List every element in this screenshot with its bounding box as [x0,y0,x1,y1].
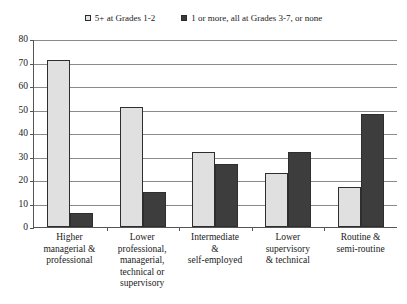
light-square-icon [85,15,91,21]
y-axis-tick-label: 70 [19,59,29,69]
chart-legend: 5+ at Grades 1-2 1 or more, all at Grade… [0,13,407,23]
bar-series-1 [338,187,361,227]
bar-group [107,40,180,227]
plot-wrapper: 01020304050607080 [33,40,397,228]
bar-group [252,40,325,227]
legend-label-series-1: 5+ at Grades 1-2 [95,13,155,23]
bar-group [34,40,107,227]
bar-series-2 [361,114,384,227]
x-axis-tick [179,227,180,231]
bar-series-2 [215,164,238,227]
bar-series-1 [192,152,215,227]
x-axis-tick [107,227,108,231]
x-axis-tick [252,227,253,231]
y-axis-tick-label: 40 [19,129,29,139]
bar-series-1 [47,60,70,227]
bar-chart: 5+ at Grades 1-2 1 or more, all at Grade… [0,0,407,304]
y-axis-tick-label: 20 [19,176,29,186]
x-axis-category-label: Intermediate&self-employed [179,232,252,290]
y-axis-tick-label: 50 [19,106,29,116]
y-axis-tick [30,228,34,229]
plot-area: 01020304050607080 [33,40,397,228]
bar-series-1 [120,107,143,227]
x-axis-category-label: Highermanagerial &professional [33,232,106,290]
y-axis-tick-label: 10 [19,200,29,210]
bar-series-2 [143,192,166,227]
legend-item-series-1: 5+ at Grades 1-2 [85,13,155,23]
bar-series-2 [288,152,311,227]
dark-square-icon [181,15,187,21]
legend-item-series-2: 1 or more, all at Grades 3-7, or none [181,13,322,23]
x-axis-category-label: Lowersupervisory& technical [251,232,324,290]
y-axis-tick-label: 0 [23,223,28,233]
bar-groups [34,40,397,227]
bar-series-2 [70,213,93,227]
x-axis-category-label: Routine &semi-routine [324,232,397,290]
x-axis-category-label: Lowerprofessional,managerial,technical o… [106,232,179,290]
y-axis-tick-label: 80 [19,35,29,45]
bar-group [179,40,252,227]
bar-group [324,40,397,227]
legend-label-series-2: 1 or more, all at Grades 3-7, or none [191,13,322,23]
bar-series-1 [265,173,288,227]
y-axis-tick-label: 60 [19,82,29,92]
x-axis-tick [324,227,325,231]
x-axis-labels: Highermanagerial &professionalLowerprofe… [33,232,397,290]
y-axis-tick-label: 30 [19,153,29,163]
